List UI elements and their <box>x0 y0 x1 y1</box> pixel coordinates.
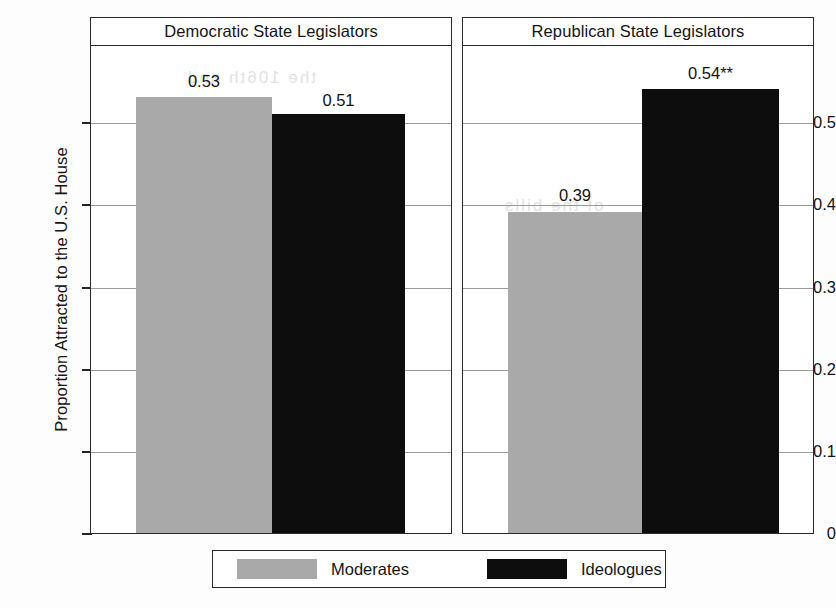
bar-value-democratic-ideologues: 0.51 <box>272 91 405 110</box>
y-axis-title: Proportion Attracted to the U.S. House <box>52 30 71 550</box>
bar-value-democratic-moderates: 0.53 <box>136 72 272 91</box>
bar-republican-ideologues[interactable] <box>642 89 779 533</box>
legend-label-moderates: Moderates <box>331 560 409 579</box>
panel-republican: Republican State Legislators of the bill… <box>462 17 814 534</box>
chart-figure: Proportion Attracted to the U.S. House 0… <box>0 0 836 608</box>
legend: Moderates Ideologues <box>212 550 666 588</box>
panel-republican-title: Republican State Legislators <box>532 22 745 41</box>
panel-democratic-title: Democratic State Legislators <box>164 22 378 41</box>
bar-democratic-moderates[interactable] <box>136 97 272 533</box>
bar-republican-moderates[interactable] <box>508 212 642 533</box>
panel-democratic-header: Democratic State Legislators <box>91 18 451 46</box>
legend-item-moderates[interactable]: Moderates <box>237 559 409 579</box>
bar-value-republican-moderates: 0.39 <box>508 186 642 205</box>
legend-label-ideologues: Ideologues <box>581 560 662 579</box>
legend-swatch-moderates-icon <box>237 559 317 579</box>
legend-swatch-ideologues-icon <box>487 559 567 579</box>
bar-value-republican-ideologues: 0.54** <box>642 64 779 83</box>
panel-democratic-plot: the 106th and 0.53 0.51 <box>91 46 451 533</box>
legend-item-ideologues[interactable]: Ideologues <box>487 559 662 579</box>
panel-republican-header: Republican State Legislators <box>463 18 813 46</box>
panel-republican-plot: of the bills 0.39 0.54** <box>463 46 813 533</box>
bar-democratic-ideologues[interactable] <box>272 114 405 533</box>
panel-democratic: Democratic State Legislators the 106th a… <box>90 17 452 534</box>
